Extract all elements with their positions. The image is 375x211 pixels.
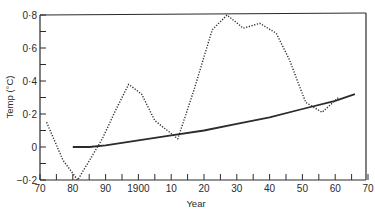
top-border-line xyxy=(40,13,366,15)
x-tick-label: 20 xyxy=(198,183,210,194)
plot-series xyxy=(47,15,355,180)
y-axis: 0·80·60·40·20−0·2 xyxy=(17,10,46,186)
x-tick-label: 40 xyxy=(264,183,276,194)
y-tick-label: 0·4 xyxy=(23,76,38,87)
y-axis-title: Temp (°C) xyxy=(4,76,15,119)
trend-line xyxy=(73,94,355,147)
y-tick-label: 0 xyxy=(31,142,37,153)
x-tick-label: 90 xyxy=(100,183,112,194)
x-tick-label: 10 xyxy=(166,183,178,194)
x-tick-label: 70 xyxy=(362,183,374,194)
x-axis: 708090190010203040506070 xyxy=(34,174,374,194)
y-tick-label: 0·8 xyxy=(23,10,38,21)
x-tick-label: 30 xyxy=(231,183,243,194)
x-tick-label: 80 xyxy=(67,183,79,194)
y-tick-label: 0·6 xyxy=(23,43,38,54)
x-axis-title: Year xyxy=(186,198,205,209)
temperature-chart: 0·80·60·40·20−0·2 7080901900102030405060… xyxy=(0,0,375,211)
x-tick-label: 1900 xyxy=(127,183,150,194)
plot-frame xyxy=(40,13,366,180)
x-tick-label: 70 xyxy=(34,183,46,194)
y-tick-label: 0·2 xyxy=(23,109,38,120)
x-tick-label: 50 xyxy=(297,183,309,194)
observed-temperature-line xyxy=(47,15,339,180)
x-tick-label: 60 xyxy=(330,183,342,194)
